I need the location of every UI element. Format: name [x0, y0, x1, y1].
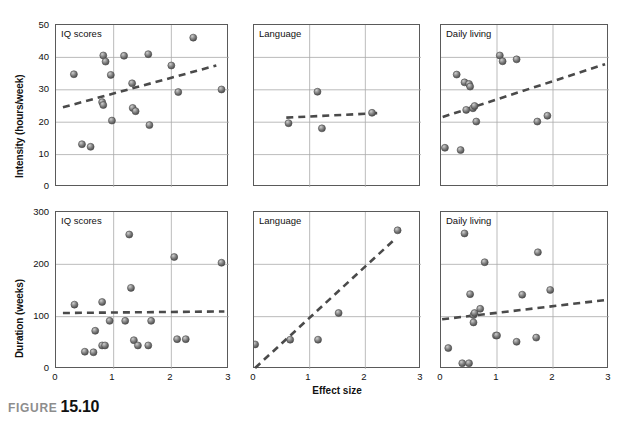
data-point [513, 56, 520, 63]
data-point [81, 348, 88, 355]
data-point [122, 317, 129, 324]
xtick-p1-3: 3 [220, 371, 236, 382]
data-point [175, 89, 182, 96]
data-point [100, 102, 107, 109]
data-point [92, 327, 99, 334]
panel-title-top-iq: IQ scores [61, 28, 102, 39]
panel-intensity-daily-living[interactable]: Daily living [440, 24, 608, 186]
trendline [63, 311, 224, 313]
data-point [145, 51, 152, 58]
data-point [335, 310, 342, 317]
data-points [71, 231, 225, 356]
panel-title-bottom-language: Language [259, 215, 301, 226]
panel-duration-daily-living[interactable]: Daily living [440, 211, 608, 368]
data-point [494, 332, 501, 339]
data-point [70, 71, 77, 78]
data-point [129, 80, 136, 87]
xtick-p1-0: 0 [47, 371, 63, 382]
ytick-top-40: 40 [27, 51, 49, 62]
gridlines [441, 25, 609, 187]
data-point [102, 342, 109, 349]
panel-intensity-iq-scores[interactable]: IQ scores [55, 24, 228, 186]
data-point [471, 103, 478, 110]
panel-title-bottom-iq: IQ scores [61, 215, 102, 226]
data-point [218, 86, 225, 93]
data-point [148, 317, 155, 324]
data-point [254, 341, 259, 348]
data-point [519, 291, 526, 298]
data-point [107, 71, 114, 78]
scatter-plot-top-language [254, 25, 421, 187]
data-points [70, 34, 225, 150]
data-point [534, 118, 541, 125]
data-point [108, 117, 115, 124]
data-point [218, 259, 225, 266]
data-point [499, 58, 506, 65]
data-point [441, 144, 448, 151]
panel-intensity-language[interactable]: Language [253, 24, 420, 186]
data-point [457, 147, 464, 154]
panel-title-top-daily: Daily living [446, 28, 491, 39]
data-point [146, 122, 153, 129]
data-point [168, 62, 175, 69]
data-point [459, 360, 466, 367]
data-point [533, 334, 540, 341]
data-point [547, 286, 554, 293]
data-point [87, 143, 94, 150]
scatter-plot-bottom-language [254, 212, 421, 369]
ytick-top-0: 0 [27, 180, 49, 191]
scatter-plot-top-daily [441, 25, 609, 187]
data-point [126, 231, 133, 238]
x-axis-label: Effect size [273, 385, 401, 396]
xtick-p3-2: 2 [544, 371, 560, 382]
data-point [134, 342, 141, 349]
data-point [369, 109, 376, 116]
data-point [315, 336, 322, 343]
trendline [63, 66, 216, 108]
data-point [445, 345, 452, 352]
xtick-p2-1: 1 [300, 371, 316, 382]
xtick-p1-1: 1 [104, 371, 120, 382]
data-point [121, 52, 128, 59]
caption-number: 15.10 [61, 398, 100, 415]
data-point [287, 336, 294, 343]
data-points [441, 52, 550, 154]
panel-title-bottom-daily: Daily living [446, 215, 491, 226]
gridlines [254, 25, 421, 187]
scatter-plot-bottom-iq [56, 212, 229, 369]
panel-duration-iq-scores[interactable]: IQ scores [55, 211, 228, 368]
data-point [466, 360, 473, 367]
data-point [467, 83, 474, 90]
data-point [174, 336, 181, 343]
ytick-bottom-300: 300 [20, 206, 49, 217]
data-point [102, 58, 109, 65]
data-point [132, 108, 139, 115]
scatter-plot-bottom-daily [441, 212, 609, 369]
data-point [453, 71, 460, 78]
data-point [78, 141, 85, 148]
data-point [314, 88, 321, 95]
data-point [481, 259, 488, 266]
data-point [182, 336, 189, 343]
data-point [473, 118, 480, 125]
data-point [99, 299, 106, 306]
data-point [470, 319, 477, 326]
data-point [106, 317, 113, 324]
gridlines [56, 25, 229, 187]
data-point [461, 230, 468, 237]
data-points [254, 227, 401, 348]
data-point [127, 284, 134, 291]
data-point [463, 106, 470, 113]
xtick-p2-2: 2 [356, 371, 372, 382]
xtick-p3-1: 1 [488, 371, 504, 382]
ytick-top-10: 10 [27, 148, 49, 159]
xtick-p2-0: 0 [245, 371, 261, 382]
panel-duration-language[interactable]: Language [253, 211, 420, 368]
data-points [285, 88, 376, 132]
data-point [190, 34, 197, 41]
data-point [394, 227, 401, 234]
ytick-bottom-0: 0 [20, 362, 49, 373]
figure-caption: FIGURE15.10 [8, 398, 99, 416]
data-point [467, 291, 474, 298]
data-point [145, 342, 152, 349]
